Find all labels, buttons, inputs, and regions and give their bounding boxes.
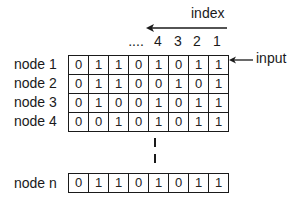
bit-cell: 0 [129, 94, 149, 113]
continuation-dash [154, 154, 156, 163]
bit-cell: 0 [129, 174, 149, 193]
continuation-dash [154, 138, 156, 147]
index-number-3: 3 [168, 32, 188, 50]
grid-row-node-n: 0 1 1 0 1 0 1 1 [69, 174, 229, 193]
bit-grid-node-n: 0 1 1 0 1 0 1 1 [68, 173, 229, 193]
index-number-2: 2 [187, 32, 207, 50]
bit-cell: 0 [169, 94, 189, 113]
bit-cell: 1 [109, 113, 129, 132]
bit-cell: 0 [69, 94, 89, 113]
bit-cell: 1 [149, 94, 169, 113]
bit-cell: 0 [69, 174, 89, 193]
bit-cell: 1 [109, 174, 129, 193]
bit-cell: 1 [189, 94, 209, 113]
bit-cell: 0 [129, 113, 149, 132]
bit-cell: 1 [209, 75, 229, 94]
row-label-node-n: node n [14, 174, 57, 193]
bit-cell: 0 [69, 113, 89, 132]
bit-cell: 0 [109, 94, 129, 113]
bit-cell: 1 [109, 75, 129, 94]
bit-cell: 0 [169, 113, 189, 132]
bit-cell: 1 [209, 94, 229, 113]
bit-cell: 1 [189, 174, 209, 193]
bit-cell: 1 [189, 56, 209, 75]
row-label-node-4: node 4 [14, 112, 57, 131]
row-label-node-3: node 3 [14, 93, 57, 112]
bit-cell: 1 [189, 113, 209, 132]
bit-cell: 1 [89, 56, 109, 75]
bit-cell: 1 [89, 94, 109, 113]
bit-cell: 1 [89, 75, 109, 94]
bit-cell: 0 [69, 56, 89, 75]
bit-cell: 1 [209, 56, 229, 75]
bit-cell: 0 [69, 75, 89, 94]
bit-cell: 1 [149, 56, 169, 75]
grid-row-node-4: 0 0 1 0 1 0 1 1 [69, 113, 229, 132]
bit-cell: 0 [129, 75, 149, 94]
index-number-1: 1 [207, 32, 227, 50]
bit-cell: 0 [89, 113, 109, 132]
bit-cell: 1 [169, 75, 189, 94]
bit-cell: 0 [189, 75, 209, 94]
bit-cell: 1 [109, 56, 129, 75]
bit-cell: 1 [149, 113, 169, 132]
grid-row-node-2: 0 1 1 0 0 1 0 1 [69, 75, 229, 94]
bit-cell: 0 [149, 75, 169, 94]
bit-cell: 0 [169, 56, 189, 75]
bit-grid: 0 1 1 0 1 0 1 1 0 1 1 0 0 1 0 1 0 1 0 0 … [68, 55, 229, 132]
bit-cell: 1 [209, 174, 229, 193]
grid-row-node-1: 0 1 1 0 1 0 1 1 [69, 56, 229, 75]
input-arrow-left-icon [228, 54, 254, 66]
index-label: index [191, 5, 224, 21]
bit-cell: 1 [149, 174, 169, 193]
row-label-node-2: node 2 [14, 74, 57, 93]
grid-row-node-3: 0 1 0 0 1 0 1 1 [69, 94, 229, 113]
bit-cell: 0 [129, 56, 149, 75]
index-ellipsis: .... [124, 32, 148, 50]
bit-cell: 1 [89, 174, 109, 193]
index-number-4: 4 [148, 32, 168, 50]
index-numbers: .... 4 3 2 1 [128, 32, 228, 50]
bit-cell: 0 [169, 174, 189, 193]
bit-cell: 1 [209, 113, 229, 132]
input-label: input [256, 50, 286, 66]
row-label-node-1: node 1 [14, 55, 57, 74]
